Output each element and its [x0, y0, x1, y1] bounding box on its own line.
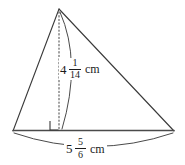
base-fraction-denominator: 6 [77, 150, 84, 161]
base-measurement-label: 5 5 6 cm [64, 138, 107, 159]
height-fraction-denominator: 14 [69, 70, 81, 81]
geometry-figure: 4 1 14 cm 5 5 6 cm [0, 0, 185, 165]
height-measurement-label: 4 1 14 cm [59, 58, 101, 80]
base-whole-number: 5 [66, 142, 74, 155]
base-fraction: 5 6 [75, 137, 86, 160]
height-unit: cm [82, 63, 100, 75]
height-fraction: 1 14 [69, 58, 81, 81]
triangle-left-side [13, 9, 59, 131]
base-fraction-numerator: 5 [77, 137, 84, 148]
height-whole-number: 4 [60, 63, 68, 76]
height-fraction-numerator: 1 [72, 58, 79, 69]
base-unit: cm [87, 143, 105, 155]
right-angle-marker-icon [50, 121, 59, 130]
